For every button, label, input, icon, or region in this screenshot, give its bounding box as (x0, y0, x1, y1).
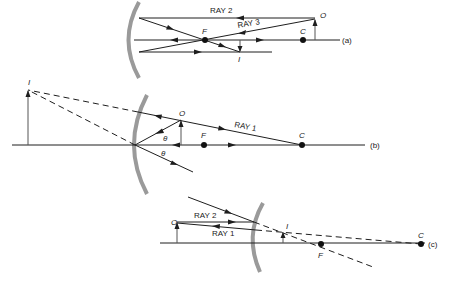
arrow-icon (228, 143, 236, 148)
arrow-icon (172, 143, 180, 148)
image-label-a: I (238, 55, 241, 64)
ray-2-label-a: RAY 2 (210, 6, 233, 15)
ray-2-label-c: RAY 2 (194, 211, 217, 220)
virtual-ray-2-c (254, 222, 373, 267)
arrow-icon (218, 43, 226, 48)
panel-tag-b: (b) (370, 141, 380, 150)
arrow-icon (166, 25, 174, 30)
angle-label-upper-b: θ (163, 134, 168, 143)
panel-c: RAY 2 RAY 1 O F C I (c) (160, 197, 438, 272)
panel-tag-a: (a) (342, 36, 352, 45)
panel-b: RAY 1 O F C I θ θ (b) (12, 78, 380, 194)
arrow-icon (218, 126, 226, 131)
mirror-ray-diagram-figure: RAY 2 RAY 3 O F C I (a) RAY 1 O F (0, 0, 452, 302)
panel-tag-c: (c) (428, 240, 438, 249)
ray-1-label-b: RAY 1 (234, 120, 258, 133)
arrow-icon (170, 38, 178, 43)
arrow-icon (256, 38, 264, 43)
focal-point-c (318, 241, 324, 247)
ray-1-label-c: RAY 1 (212, 229, 235, 238)
arrow-icon (313, 19, 318, 26)
center-label-c: C (418, 231, 424, 240)
focal-point-a (202, 37, 208, 43)
virtual-ray-1-b (28, 90, 138, 112)
virtual-ray-vertex-b (28, 90, 135, 145)
arrow-icon (26, 90, 31, 97)
image-label-c: I (286, 222, 289, 231)
center-point-c (418, 241, 424, 247)
panel-a: RAY 2 RAY 3 O F C I (a) (129, 2, 353, 78)
angle-label-lower-b: θ (161, 149, 166, 158)
focal-label-a: F (202, 27, 208, 36)
center-point-a (300, 37, 306, 43)
object-label-b: O (179, 109, 185, 118)
center-label-b: C (299, 131, 305, 140)
image-label-b: I (28, 78, 31, 87)
arrow-icon (170, 160, 178, 165)
ray-3-a (139, 19, 315, 52)
arrow-icon (228, 220, 236, 225)
arrow-icon (154, 115, 162, 120)
convex-mirror-c (253, 203, 263, 272)
center-label-a: C (300, 27, 306, 36)
object-label-a: O (320, 11, 326, 20)
arrow-icon (238, 30, 246, 35)
virtual-ray-1-c (256, 230, 421, 244)
object-label-c: O (171, 218, 177, 227)
arrow-icon (224, 209, 232, 214)
focal-label-b: F (201, 131, 207, 140)
center-point-b (299, 142, 305, 148)
focal-label-c: F (318, 251, 324, 260)
arrow-icon (194, 50, 202, 55)
focal-point-b (201, 142, 207, 148)
arrow-icon (281, 232, 286, 238)
